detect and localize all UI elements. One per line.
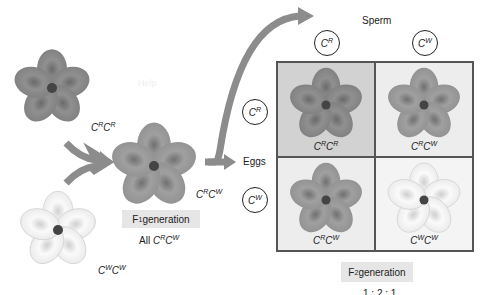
parent-white-flower [18, 190, 98, 270]
punnett-genotype: CRCW [376, 140, 472, 152]
punnett-genotype: CRCW [278, 234, 374, 246]
egg-allele-w: CW [242, 187, 268, 213]
pink-flower [288, 162, 364, 238]
red-flower [288, 67, 364, 143]
pink-flower [386, 67, 462, 143]
sperm-allele-w: CW [412, 30, 438, 56]
punnett-cell-ww: CWCW [375, 157, 473, 252]
f2-ratio-partial: 1 : 2 : 1 [363, 289, 396, 295]
punnett-cell-rw-bottom: CRCW [277, 157, 375, 252]
f2-generation-label: F2 generation [341, 262, 413, 282]
f1-generation-label: F1 generation [122, 210, 200, 228]
eggs-label: Eggs [243, 156, 266, 167]
eggs-arrow-head-icon [224, 154, 236, 170]
sperm-arrow-head-icon [298, 7, 314, 25]
parent-white-genotype: CWCW [98, 264, 126, 276]
punnett-genotype: CRCR [278, 140, 374, 152]
f1-pink-flower [110, 122, 198, 210]
f1-genotype: CRCW [196, 188, 222, 200]
egg-allele-r: CR [242, 99, 268, 125]
punnett-cell-rr: CRCR [277, 62, 375, 157]
parent-red-flower [12, 48, 92, 128]
sperm-allele-r: CR [314, 30, 340, 56]
punnett-genotype: CWCW [376, 234, 472, 246]
sperm-label: Sperm [362, 15, 391, 26]
white-flower [386, 162, 462, 238]
f1-all-genotype: All CRCW [139, 234, 179, 246]
punnett-square: CRCR CRCW CRCW CWCW [276, 61, 474, 252]
punnett-cell-rw-top: CRCW [375, 62, 473, 157]
